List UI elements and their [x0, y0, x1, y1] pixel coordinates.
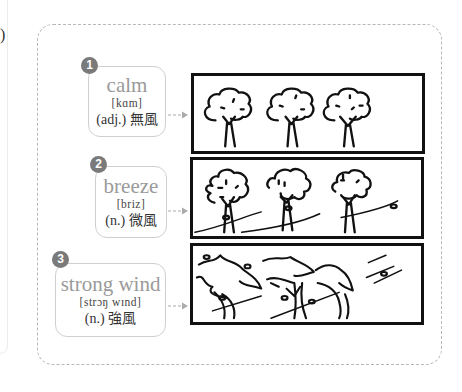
illustration-breeze	[190, 157, 424, 239]
dashed-arrow-icon	[167, 301, 189, 311]
illustration-calm	[191, 73, 425, 154]
vocab-card-breeze: breeze [briz] (n.) 微風	[95, 166, 167, 238]
vocab-word: strong wind	[61, 273, 161, 295]
vocab-card-calm: calm [kɑm] (adj.) 無風	[88, 66, 166, 137]
vocab-word: breeze	[104, 175, 159, 197]
vocab-definition: (n.) 強風	[85, 310, 136, 328]
number-badge: 1	[81, 57, 98, 74]
storm-trees-icon	[193, 246, 421, 322]
still-trees-icon	[194, 76, 422, 151]
vocab-pronunciation: [kɑm]	[112, 96, 143, 111]
vocab-pronunciation: [briz]	[117, 197, 146, 212]
illustration-strong-wind	[190, 243, 424, 325]
breezy-trees-icon	[193, 160, 421, 236]
vocab-definition: (n.) 微風	[105, 212, 156, 230]
left-panel-text-fragment: )	[0, 26, 5, 44]
left-panel-edge	[0, 0, 8, 354]
dashed-arrow-icon	[167, 110, 189, 120]
vocab-pronunciation: [strɔŋ wɪnd]	[80, 295, 142, 310]
vocab-word: calm	[107, 74, 148, 96]
number-badge: 2	[90, 156, 107, 173]
dashed-arrow-icon	[167, 206, 189, 216]
vocab-definition: (adj.) 無風	[96, 111, 157, 129]
number-badge: 3	[52, 251, 69, 268]
vocab-card-strong-wind: strong wind [strɔŋ wɪnd] (n.) 強風	[55, 263, 166, 337]
